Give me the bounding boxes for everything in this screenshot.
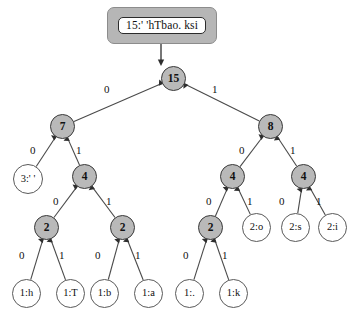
tree-node-label: 4 — [301, 171, 307, 183]
edge-bit-label-n2b-l1b: 0 — [95, 250, 101, 261]
tree-node-label: 2:i — [327, 222, 338, 233]
tree-edge-n4a-n2b — [93, 187, 115, 217]
tree-node-label: 2 — [44, 222, 50, 234]
tree-node-label: 4 — [230, 171, 236, 183]
edge-bit-label-root-n7: 0 — [104, 84, 110, 95]
tree-node-n2a: 2 — [34, 215, 59, 240]
tree-edge-root-n7 — [74, 84, 161, 122]
tree-edge-n2b-l1b — [108, 241, 119, 280]
edge-bit-label-n4c-l2s: 0 — [279, 196, 285, 207]
edge-bit-label-n4b-n2c: 0 — [206, 196, 212, 207]
tree-node-root: 15 — [161, 66, 186, 91]
edge-bit-label-root-n8: 1 — [212, 84, 218, 95]
tree-node-label: 1:k — [227, 288, 240, 299]
edge-bit-label-n7-l3space: 0 — [30, 145, 36, 156]
tree-node-n4c: 4 — [291, 164, 316, 189]
tree-node-label: 1:T — [63, 288, 78, 299]
tree-node-label: 2:s — [289, 222, 301, 233]
tree-node-l1k: 1:k — [219, 279, 248, 308]
tree-edge-n4b-n2c — [215, 189, 227, 216]
tree-node-l1a: 1:a — [134, 279, 163, 308]
tree-node-label: 4 — [82, 171, 88, 183]
edge-bit-label-n2a-l1T: 1 — [59, 250, 65, 261]
tree-node-label: 1:. — [184, 288, 195, 299]
tree-node-l2o: 2:o — [242, 213, 271, 242]
tree-node-label: 1:b — [98, 288, 111, 299]
tree-node-label: 1:a — [142, 288, 155, 299]
tree-node-n2b: 2 — [110, 215, 135, 240]
tree-node-l3space: 3:' ' — [13, 164, 43, 194]
edge-bit-label-n2c-l1k: 1 — [222, 250, 228, 261]
edge-bit-label-n2c-l1dot: 0 — [183, 250, 189, 261]
tree-node-label: 3:' ' — [21, 174, 36, 185]
edge-bit-label-n8-n4c: 1 — [290, 145, 296, 156]
tree-node-n8: 8 — [258, 114, 283, 139]
tree-node-l1b: 1:b — [90, 279, 119, 308]
tree-node-l1dot: 1:. — [175, 279, 204, 308]
tree-node-label: 2 — [120, 222, 126, 234]
tree-node-label: 8 — [268, 121, 274, 133]
tree-node-label: 2 — [208, 222, 214, 234]
root-arrow-head-icon — [158, 59, 164, 66]
edge-bit-label-n2b-l1a: 1 — [135, 250, 141, 261]
tree-node-n4b: 4 — [220, 164, 245, 189]
tree-node-l2s: 2:s — [281, 213, 310, 242]
tree-node-label: 1:h — [20, 288, 33, 299]
tree-edge-n2c-l1dot — [194, 240, 207, 279]
tree-node-n7: 7 — [50, 114, 75, 139]
edge-bit-label-n2a-l1h: 0 — [19, 250, 25, 261]
tree-edge-n4c-l2s — [298, 190, 302, 213]
tree-node-l1h: 1:h — [12, 279, 41, 308]
tree-node-l1T: 1:T — [56, 279, 85, 308]
tree-node-label: 2:o — [250, 222, 263, 233]
tree-node-n2c: 2 — [198, 215, 223, 240]
tree-edge-n2a-l1h — [31, 240, 43, 279]
tree-node-label: 7 — [60, 121, 66, 133]
tree-edge-n7-l3space — [36, 138, 55, 167]
edge-bit-label-n7-n4a: 1 — [76, 145, 82, 156]
tree-node-n4a: 4 — [72, 164, 97, 189]
tree-node-label: 15 — [168, 73, 180, 85]
root-arrow — [158, 44, 164, 66]
edge-bit-label-n8-n4b: 0 — [239, 145, 245, 156]
edge-bit-label-n4c-l2i: 1 — [316, 196, 322, 207]
tree-node-l2i: 2:i — [318, 213, 347, 242]
edge-bit-label-n4a-n2b: 1 — [106, 196, 112, 207]
edge-bit-label-n4b-l2o: 1 — [247, 196, 253, 207]
edge-bit-label-n4a-n2a: 0 — [53, 196, 59, 207]
tree-edge-root-n8 — [186, 84, 260, 120]
